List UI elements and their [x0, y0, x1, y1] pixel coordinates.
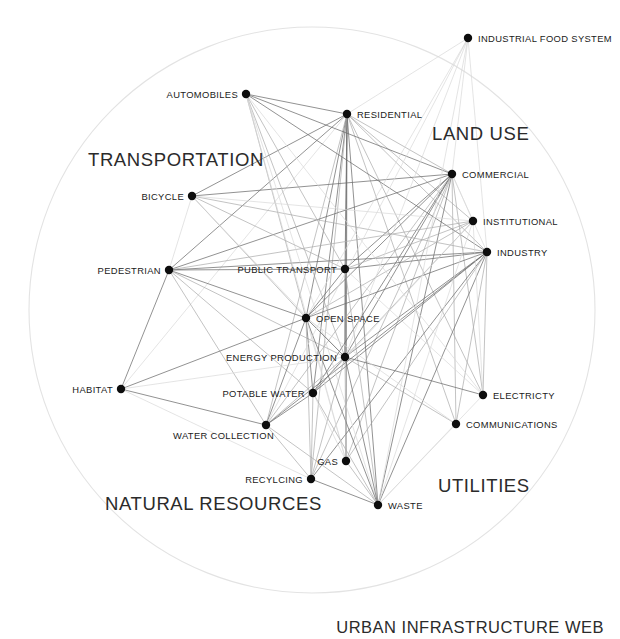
node-label-open_space: OPEN SPACE [316, 313, 380, 324]
network-edge [311, 114, 347, 479]
node-dot-industrial_food_system[interactable] [464, 34, 472, 42]
node-dot-commercial[interactable] [448, 170, 456, 178]
node-label-electricty: ELECTRICTY [493, 390, 555, 401]
node-dot-open_space[interactable] [302, 314, 310, 322]
network-edge [192, 196, 345, 357]
section-label-transportation: TRANSPORTATION [88, 149, 264, 170]
node-label-residential: RESIDENTIAL [357, 109, 422, 120]
node-dot-pedestrian[interactable] [165, 266, 173, 274]
network-edge [345, 174, 452, 357]
network-node-bicycle[interactable]: BICYCLE [141, 191, 196, 202]
network-node-industrial_food_system[interactable]: INDUSTRIAL FOOD SYSTEM [464, 33, 612, 44]
network-node-electricty[interactable]: ELECTRICTY [479, 390, 555, 401]
network-node-automobiles[interactable]: AUTOMOBILES [167, 89, 251, 100]
node-label-industrial_food_system: INDUSTRIAL FOOD SYSTEM [478, 33, 612, 44]
node-dot-energy_production[interactable] [341, 353, 349, 361]
node-dot-gas[interactable] [342, 457, 350, 465]
node-label-habitat: HABITAT [72, 384, 113, 395]
node-label-commercial: COMMERCIAL [462, 169, 529, 180]
node-label-water_collection: WATER COLLECTION [173, 430, 274, 441]
node-dot-communications[interactable] [452, 420, 460, 428]
node-label-potable_water: POTABLE WATER [222, 388, 305, 399]
node-dot-water_collection[interactable] [262, 421, 270, 429]
node-label-recylcing: RECYLCING [245, 474, 303, 485]
node-dot-public_transport[interactable] [341, 265, 349, 273]
network-edge [121, 270, 169, 389]
node-label-industry: INDUSTRY [497, 247, 548, 258]
network-node-commercial[interactable]: COMMERCIAL [448, 169, 529, 180]
network-edge [169, 270, 313, 393]
node-label-bicycle: BICYCLE [141, 191, 184, 202]
network-node-industry[interactable]: INDUSTRY [483, 247, 548, 258]
network-edge [345, 357, 346, 461]
network-node-energy_production[interactable]: ENERGY PRODUCTION [226, 352, 349, 363]
network-edge [169, 221, 473, 270]
network-edge [169, 174, 452, 270]
urban-infrastructure-web-diagram: INDUSTRIAL FOOD SYSTEMAUTOMOBILESRESIDEN… [0, 0, 620, 639]
network-edge [345, 252, 487, 357]
network-edge [345, 38, 468, 357]
node-dot-recylcing[interactable] [307, 475, 315, 483]
node-dot-industry[interactable] [483, 248, 491, 256]
node-dot-institutional[interactable] [469, 217, 477, 225]
node-label-automobiles: AUTOMOBILES [167, 89, 238, 100]
node-dot-bicycle[interactable] [188, 192, 196, 200]
network-node-pedestrian[interactable]: PEDESTRIAN [98, 265, 174, 276]
node-label-communications: COMMUNICATIONS [466, 419, 558, 430]
network-node-potable_water[interactable]: POTABLE WATER [222, 388, 317, 399]
network-node-habitat[interactable]: HABITAT [72, 384, 125, 395]
node-dot-waste[interactable] [374, 501, 382, 509]
network-edge [169, 196, 192, 270]
node-label-institutional: INSTITUTIONAL [483, 216, 558, 227]
node-label-pedestrian: PEDESTRIAN [98, 265, 161, 276]
node-label-energy_production: ENERGY PRODUCTION [226, 352, 337, 363]
network-edge [169, 270, 266, 425]
network-edge [192, 174, 452, 196]
network-edge [246, 94, 452, 174]
node-dot-automobiles[interactable] [242, 90, 250, 98]
node-dot-potable_water[interactable] [309, 389, 317, 397]
section-label-land_use: LAND USE [432, 123, 529, 144]
network-edge [345, 221, 473, 269]
node-label-waste: WASTE [388, 500, 423, 511]
network-node-public_transport[interactable]: PUBLIC TRANSPORT [237, 264, 349, 275]
network-node-open_space[interactable]: OPEN SPACE [302, 313, 380, 324]
network-node-institutional[interactable]: INSTITUTIONAL [469, 216, 558, 227]
network-node-water_collection[interactable]: WATER COLLECTION [173, 421, 274, 441]
network-edge [473, 221, 483, 395]
node-dot-residential[interactable] [343, 110, 351, 118]
network-edge [246, 94, 345, 269]
network-node-gas[interactable]: GAS [317, 456, 350, 467]
section-label-natural_resources: NATURAL RESOURCES [105, 493, 322, 514]
node-dot-electricty[interactable] [479, 391, 487, 399]
node-dot-habitat[interactable] [117, 385, 125, 393]
network-edge [192, 196, 473, 221]
network-edge [345, 252, 487, 269]
diagram-title: URBAN INFRASTRUCTURE WEB [336, 618, 604, 636]
network-canvas: INDUSTRIAL FOOD SYSTEMAUTOMOBILESRESIDEN… [0, 0, 620, 639]
network-edge [347, 38, 468, 114]
node-label-gas: GAS [317, 456, 338, 467]
section-label-utilities: UTILITIES [438, 475, 530, 496]
node-label-public_transport: PUBLIC TRANSPORT [237, 264, 337, 275]
network-edge [192, 196, 345, 269]
network-edge [483, 252, 487, 395]
network-node-communications[interactable]: COMMUNICATIONS [452, 419, 558, 430]
